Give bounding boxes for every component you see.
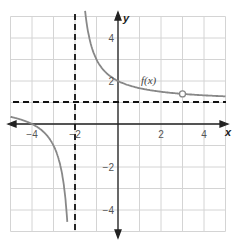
y-tick-label: −2	[103, 162, 115, 173]
x-axis-label: x	[224, 126, 232, 138]
x-tick-label: −2	[69, 129, 81, 140]
y-tick-label: −4	[103, 205, 115, 216]
y-axis-label: y	[122, 12, 130, 24]
function-label: f(x)	[141, 74, 157, 87]
y-axis-up-arrow-icon	[115, 12, 121, 20]
axes	[8, 12, 228, 238]
y-axis-down-arrow-icon	[115, 230, 121, 238]
y-tick-label: 2	[108, 76, 114, 87]
x-tick-label: −4	[26, 129, 38, 140]
x-tick-label: 4	[201, 129, 207, 140]
x-tick-label: 2	[158, 129, 164, 140]
function-graph: −4−22442−2−4 x y f(x)	[0, 0, 239, 244]
x-axis-left-arrow-icon	[8, 121, 16, 127]
open-circle-hole	[180, 91, 186, 97]
y-tick-label: 4	[108, 33, 114, 44]
